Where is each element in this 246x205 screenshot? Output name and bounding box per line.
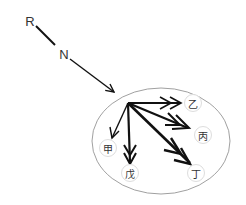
r-n-line [36,26,55,45]
arrow-to-jia [110,103,128,138]
node-ding: 丁 [187,164,205,182]
label-n: N [59,48,68,61]
node-yi: 乙 [184,94,202,112]
arrow-to-wu [124,103,136,164]
arrow-to-ding [128,103,190,164]
n-arrow [70,59,114,92]
node-wu: 戊 [121,164,139,182]
node-jia: 甲 [99,139,117,157]
arrow-to-bing [128,103,189,129]
node-bing: 丙 [194,126,212,144]
label-r: R [25,15,34,28]
